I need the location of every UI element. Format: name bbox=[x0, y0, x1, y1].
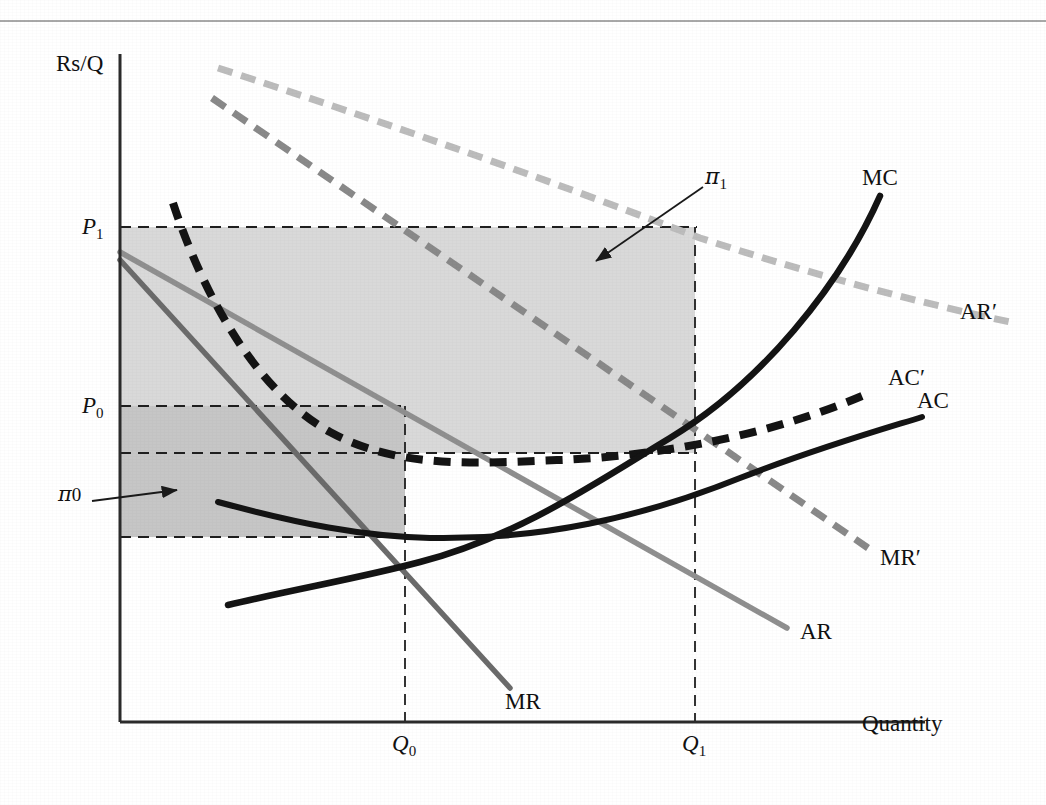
x-tick-label-q0: Q0 bbox=[392, 732, 416, 755]
pi0-shaded-region bbox=[120, 406, 405, 537]
curve-label-ar: AR bbox=[800, 620, 832, 643]
curve-label-ac: AC bbox=[917, 389, 949, 412]
x-axis-label: Quantity bbox=[862, 712, 943, 735]
annotation-label-pi1: π1 bbox=[705, 166, 727, 188]
annotation-label-pi0: π0 bbox=[58, 484, 81, 505]
curve-label-ar-prime: AR′ bbox=[960, 300, 997, 323]
curve-label-mc: MC bbox=[862, 166, 898, 189]
curve-label-ac-prime: AC′ bbox=[888, 366, 925, 389]
curve-label-mr: MR bbox=[505, 690, 541, 713]
economics-diagram bbox=[0, 0, 1046, 805]
x-tick-label-q1: Q1 bbox=[682, 732, 706, 755]
curve-label-mr-prime: MR′ bbox=[880, 546, 921, 569]
y-tick-label-p0: P0 bbox=[82, 394, 104, 417]
y-axis-label: Rs/Q bbox=[56, 52, 103, 75]
y-tick-label-p1: P1 bbox=[82, 215, 104, 238]
figure-page: Rs/Q Quantity P1 P0 Q0 Q1 MC AR′ AC′ AC … bbox=[0, 0, 1046, 805]
